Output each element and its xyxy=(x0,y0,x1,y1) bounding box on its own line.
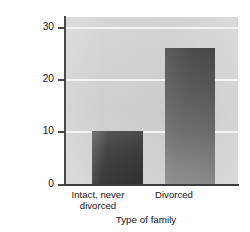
bar-divorced[interactable] xyxy=(165,48,215,184)
bar-intact-never-divorced[interactable] xyxy=(92,131,143,184)
x-tick-label-divorced: Divorced xyxy=(131,189,217,200)
y-axis-line xyxy=(64,16,66,185)
y-tick-label-20: 20 xyxy=(43,74,54,84)
x-axis-line xyxy=(64,184,239,186)
bar-fill xyxy=(165,48,215,184)
x-tick-label-line2: divorced xyxy=(52,200,144,211)
gridline-30 xyxy=(66,27,238,29)
y-tick-label-30: 30 xyxy=(43,22,54,32)
y-tick-label-10: 10 xyxy=(43,126,54,136)
x-tick-label-line1: Intact, never xyxy=(72,189,125,200)
y-tick-label-0: 0 xyxy=(48,179,54,189)
x-tick-label-line1: Divorced xyxy=(155,189,193,200)
x-axis-title: Type of family xyxy=(0,214,250,225)
bar-fill xyxy=(92,131,143,184)
plot-area xyxy=(66,17,238,184)
bar-chart-figure: Percentage of children showing serious e… xyxy=(0,0,250,232)
